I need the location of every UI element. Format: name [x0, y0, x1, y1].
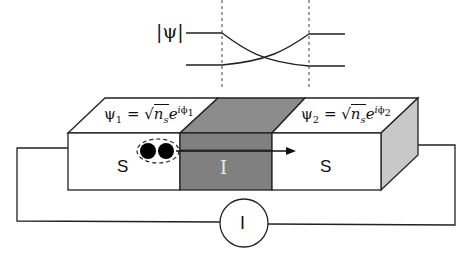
electron-2 — [158, 143, 174, 159]
sqrt-argument: ns — [154, 104, 169, 123]
sqrt-argument: ns — [351, 104, 366, 123]
psi-symbol: ψ — [104, 105, 116, 123]
sqrt-sign: √ — [341, 105, 351, 123]
electron-1 — [140, 143, 156, 159]
left-superconductor-label: S — [117, 157, 128, 177]
equals-sign: = — [319, 105, 341, 123]
ammeter-label: I — [240, 213, 245, 234]
psi2-curve — [186, 34, 345, 65]
order-parameter-graph — [186, 0, 345, 88]
phase-subscript: 2 — [385, 107, 391, 118]
phase-symbol: ϕ — [181, 104, 188, 115]
right-superconductor-label: S — [320, 157, 331, 177]
right-wavefunction-equation: ψ2 = √nseiϕ2 — [301, 104, 391, 125]
exp-base: e — [169, 105, 178, 123]
left-wavefunction-equation: ψ1 = √nseiϕ1 — [104, 104, 194, 125]
insulator-label: I — [220, 157, 227, 178]
equals-sign: = — [122, 105, 144, 123]
exponent: iϕ1 — [178, 104, 194, 115]
psi-magnitude-label: |ψ| — [156, 20, 184, 42]
psi1-curve — [186, 33, 345, 66]
exponent: iϕ2 — [375, 104, 391, 115]
sqrt-sign: √ — [144, 105, 154, 123]
phase-symbol: ϕ — [378, 104, 385, 115]
josephson-junction-diagram — [0, 0, 470, 260]
phase-subscript: 1 — [188, 107, 194, 118]
psi-symbol: ψ — [301, 105, 313, 123]
exp-base: e — [366, 105, 375, 123]
